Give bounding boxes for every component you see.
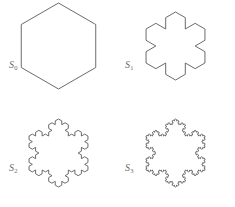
koch-curve-s0: [21, 3, 95, 89]
stage-label-s1: S1: [125, 60, 133, 70]
stage-label-s2-subscript: 2: [14, 167, 17, 174]
panel-s1: [117, 0, 234, 103]
koch-curve-s3: [146, 119, 205, 187]
stage-label-s3-subscript: 3: [130, 167, 133, 174]
stage-label-s2: S2: [9, 163, 17, 173]
stage-label-s0: S0: [9, 60, 17, 70]
panel-s0: [0, 0, 117, 103]
koch-snowflake-figure: S0 S1 S2 S3: [0, 0, 235, 207]
fractal-svg-s1: [117, 0, 234, 103]
koch-curve-s2: [29, 119, 88, 187]
panel-s3: [117, 103, 234, 206]
koch-curve-s1: [146, 12, 205, 80]
stage-label-s0-subscript: 0: [14, 64, 17, 71]
stage-label-s3: S3: [125, 163, 133, 173]
fractal-svg-s2: [0, 103, 117, 206]
stage-label-s1-subscript: 1: [130, 64, 133, 71]
panel-s2: [0, 103, 117, 206]
fractal-svg-s3: [117, 103, 234, 206]
fractal-svg-s0: [0, 0, 117, 103]
